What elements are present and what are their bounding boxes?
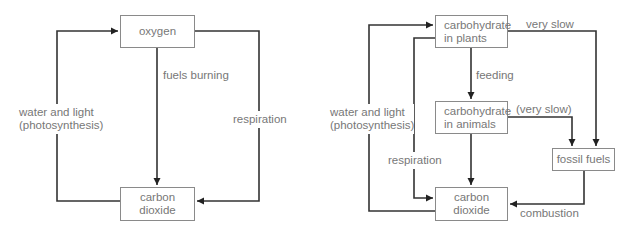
node-label-line1: carbon <box>140 191 175 204</box>
node-label-line2: dioxide <box>139 204 175 217</box>
edge-label-line2: (photosynthesis) <box>330 119 414 132</box>
edge-label-very-slow-paren: (very slow) <box>516 103 572 116</box>
node-carbon-dioxide: carbon dioxide <box>120 187 195 221</box>
node-label-line2: dioxide <box>453 204 489 217</box>
node-label: fossil fuels <box>557 153 611 166</box>
node-label-line1: carbon <box>454 191 489 204</box>
edge-label-line2: (photosynthesis) <box>19 119 103 132</box>
edge-label-combustion: combustion <box>520 207 579 220</box>
node-label: oxygen <box>139 25 176 38</box>
node-label-line1: carbohydrate <box>444 19 511 32</box>
node-label-line1: carbohydrate <box>444 105 511 118</box>
edge-label-photosynthesis: water and light (photosynthesis) <box>19 104 103 134</box>
edge-label-respiration: respiration <box>233 111 287 128</box>
node-carbohydrate-in-animals: carbohydrate in animals <box>435 101 508 134</box>
node-oxygen: oxygen <box>120 15 195 48</box>
node-carbohydrate-in-plants: carbohydrate in plants <box>435 15 508 48</box>
node-fossil-fuels: fossil fuels <box>552 148 615 171</box>
edge-label-photosynthesis: water and light (photosynthesis) <box>330 104 414 134</box>
edge-label-line1: water and light <box>19 106 103 119</box>
edge-label-fuels-burning: fuels burning <box>163 69 229 82</box>
node-label-line2: in animals <box>444 118 496 131</box>
edge-label-respiration: respiration <box>388 152 442 169</box>
node-label-line2: in plants <box>444 32 487 45</box>
node-carbon-dioxide: carbon dioxide <box>435 187 508 221</box>
edge-label-line1: water and light <box>330 106 414 119</box>
edge-label-feeding: feeding <box>476 69 514 82</box>
edge-label-very-slow: very slow <box>526 18 574 31</box>
